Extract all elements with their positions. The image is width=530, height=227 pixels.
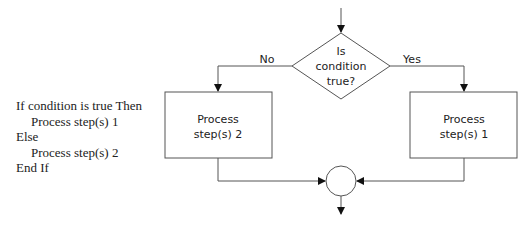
- right-merge-arrow: [357, 158, 464, 181]
- decision-text: Is: [337, 45, 346, 58]
- yes-label: Yes: [402, 53, 421, 66]
- left-merge-arrow: [218, 158, 325, 181]
- no-label: No: [260, 53, 275, 66]
- decision-text: condition: [316, 60, 367, 73]
- flowchart: Is condition true? No Yes Process step(s…: [0, 0, 530, 227]
- no-branch-arrow: [218, 66, 292, 91]
- yes-branch-arrow: [390, 66, 464, 91]
- right-box-text: Process: [443, 113, 485, 126]
- merge-connector: [326, 166, 356, 196]
- decision-text: true?: [327, 75, 356, 88]
- right-box-text: step(s) 1: [440, 128, 489, 141]
- left-box-text: Process: [197, 113, 239, 126]
- left-box-text: step(s) 2: [194, 128, 243, 141]
